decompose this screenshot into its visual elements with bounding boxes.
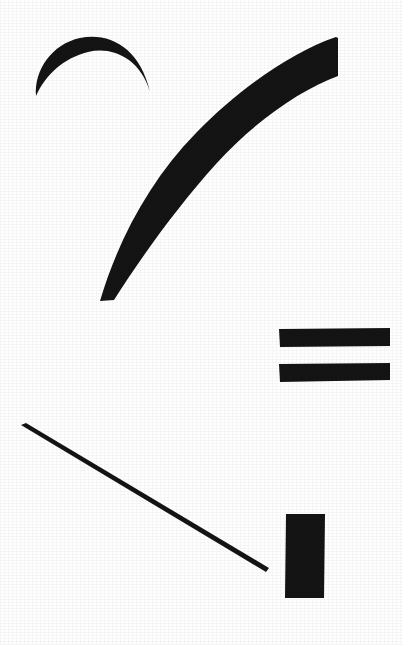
stroke-equals-bar-lower [279, 363, 390, 382]
artwork-canvas [0, 0, 403, 645]
background-rect [0, 0, 403, 645]
stroke-equals-bar-upper [279, 328, 390, 347]
stroke-vertical-block [285, 514, 325, 598]
ink-strokes-svg [0, 0, 403, 645]
